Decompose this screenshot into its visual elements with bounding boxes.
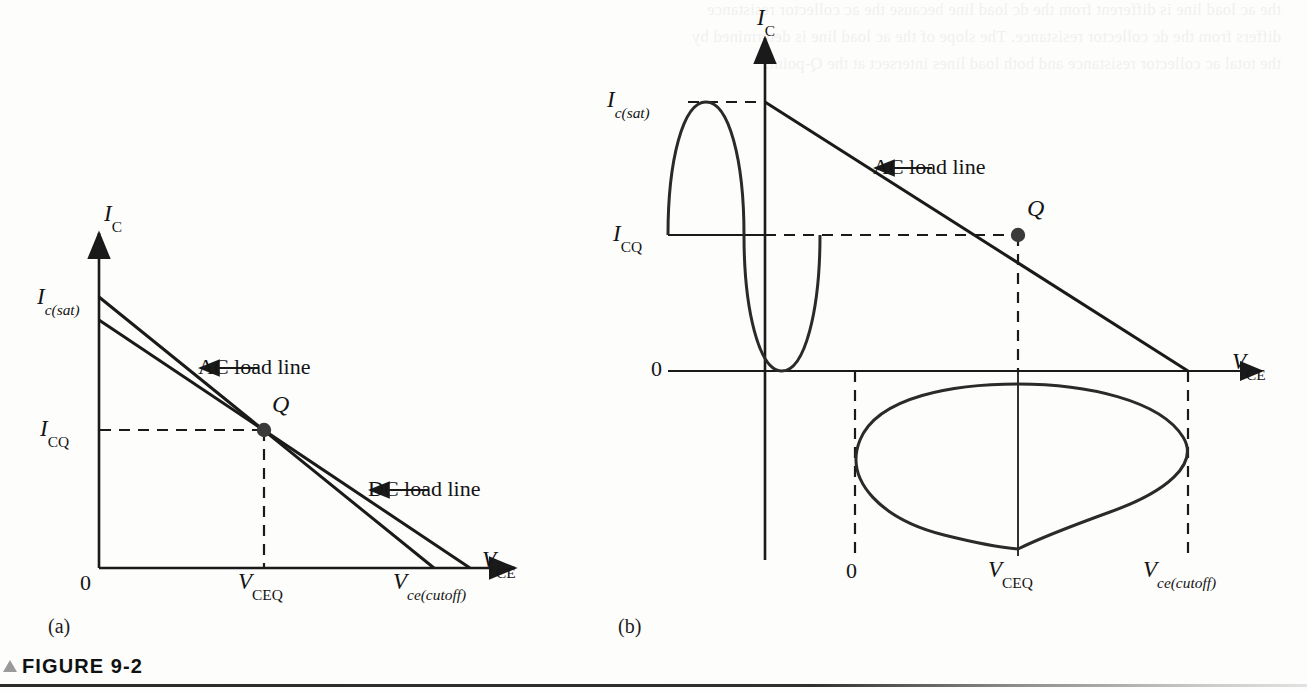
chart-b-ac-load-line bbox=[765, 102, 1188, 371]
chart-a-vce-cutoff-label: Vce(cutoff) bbox=[393, 570, 466, 593]
chart-b-zero-current-label: 0 bbox=[651, 358, 662, 380]
chart-b-collector-current-waveform bbox=[668, 102, 820, 371]
figure-caption-text: FIGURE 9-2 bbox=[22, 655, 143, 678]
triangle-up-icon bbox=[3, 660, 17, 672]
figure-9-2: the ac load line is different from the d… bbox=[0, 0, 1307, 691]
chart-a-dc-load-line-label: DC load line bbox=[368, 478, 480, 500]
chart-a-y-axis-label: IC bbox=[104, 202, 122, 225]
chart-b-vceq-label: VCEQ bbox=[988, 558, 1033, 581]
chart-b-x-axis-label: VCE bbox=[1232, 350, 1266, 373]
chart-b-q-point-marker bbox=[1011, 228, 1025, 242]
chart-a-vceq-label: VCEQ bbox=[238, 570, 283, 593]
chart-a-x-axis-label: VCE bbox=[482, 548, 516, 571]
chart-b-group bbox=[668, 38, 1262, 560]
chart-a-ac-load-line-label: AC load line bbox=[198, 356, 310, 378]
subcaption-b: (b) bbox=[618, 615, 641, 638]
chart-a-group bbox=[99, 233, 515, 568]
chart-b-vce-waveform-lower-left bbox=[856, 384, 1018, 549]
caption-divider bbox=[0, 684, 1307, 687]
chart-b-q-point-label: Q bbox=[1027, 196, 1044, 220]
chart-b-icq-label: ICQ bbox=[613, 222, 642, 245]
chart-b-y-axis-label: IC bbox=[757, 6, 775, 29]
chart-a-ic-sat-label: Ic(sat) bbox=[37, 285, 80, 308]
chart-a-icq-label: ICQ bbox=[40, 417, 69, 440]
chart-b-ac-load-line-label: AC load line bbox=[873, 156, 985, 178]
chart-b-zero-voltage-label: 0 bbox=[846, 560, 857, 582]
chart-b-vce-waveform-upper-right bbox=[1018, 384, 1187, 549]
chart-b-ic-sat-label: Ic(sat) bbox=[607, 88, 650, 111]
figure-graphics bbox=[0, 0, 1307, 691]
chart-a-q-point-marker bbox=[257, 423, 271, 437]
subcaption-a: (a) bbox=[48, 615, 70, 638]
chart-b-vce-cutoff-label: Vce(cutoff) bbox=[1143, 558, 1216, 581]
chart-a-origin-label: 0 bbox=[80, 572, 91, 594]
chart-a-q-point-label: Q bbox=[272, 392, 289, 416]
figure-caption-block: FIGURE 9-2 bbox=[0, 652, 1307, 691]
